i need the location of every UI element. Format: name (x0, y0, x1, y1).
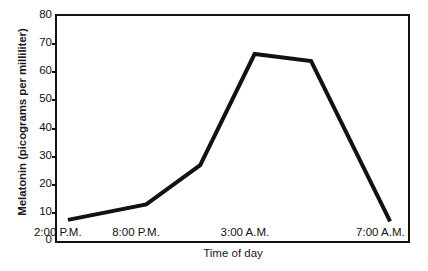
x-axis-title: Time of day (55, 247, 411, 259)
y-tick-label-30: 30 (26, 150, 52, 162)
x-tick-label-1: 8:00 P.M. (112, 226, 192, 238)
y-tick-label-50: 50 (26, 93, 52, 105)
y-tick-label-80: 80 (26, 9, 52, 21)
y-tick-label-70: 70 (26, 37, 52, 49)
x-tick-label-0: 2:00 P.M. (34, 226, 114, 238)
melatonin-line-chart: Melatonin (picograms per milliliter) 010… (0, 0, 428, 271)
y-tick-label-10: 10 (26, 206, 52, 218)
x-axis-tick-labels: 2:00 P.M.8:00 P.M.3:00 A.M.7:00 A.M. (55, 14, 410, 243)
x-tick-label-2: 3:00 A.M. (221, 226, 301, 238)
y-tick-label-60: 60 (26, 65, 52, 77)
x-tick-label-3: 7:00 A.M. (356, 226, 428, 238)
y-tick-label-40: 40 (26, 122, 52, 134)
y-tick-label-20: 20 (26, 178, 52, 190)
